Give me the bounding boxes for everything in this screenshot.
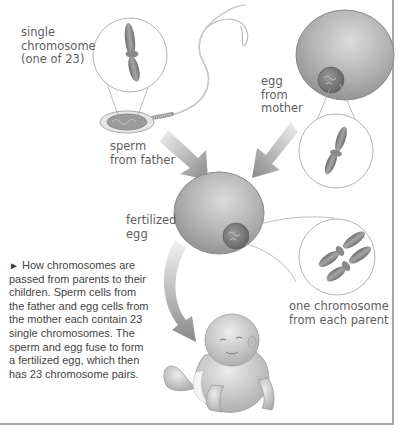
fertilized-egg: [174, 172, 264, 254]
fertilized-egg-label: fertilized egg: [126, 214, 176, 241]
sperm-label: sperm from father: [110, 140, 175, 167]
egg-label: egg from mother: [261, 75, 303, 116]
caption-marker-icon: ►: [9, 260, 19, 271]
egg-cell: [296, 10, 394, 100]
arrow-to-baby: [164, 240, 196, 342]
chromosome-pair-callout: [246, 217, 375, 295]
sperm-chromosome-callout: [93, 18, 167, 115]
arrow-from-egg: [252, 122, 298, 178]
caption-text: How chromosomes are passed from parents …: [9, 259, 148, 380]
sperm-head: [100, 111, 154, 133]
figure-caption: ► How chromosomes are passed from parent…: [9, 259, 149, 381]
single-chromosome-label: single chromosome (one of 23): [21, 26, 96, 67]
one-from-each-label: one chromosome from each parent: [289, 300, 389, 327]
